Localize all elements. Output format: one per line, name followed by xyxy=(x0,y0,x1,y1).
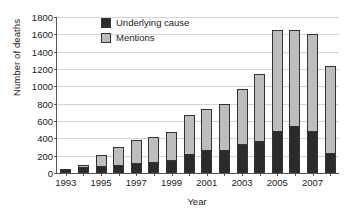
bar-group xyxy=(113,147,124,173)
legend-label-mentions: Mentions xyxy=(116,32,155,43)
bar-segment-underlying-cause xyxy=(113,165,124,173)
bar-group xyxy=(272,30,283,173)
bar-segment-underlying-cause xyxy=(289,126,300,173)
stacked-bar-chart: Number of deaths 02004006008001000120014… xyxy=(0,0,344,213)
bar-segment-underlying-cause xyxy=(325,153,336,173)
bar-group xyxy=(201,109,212,173)
bar-group xyxy=(237,89,248,173)
y-tick-label: 400 xyxy=(37,133,53,144)
legend-label-underlying-cause: Underlying cause xyxy=(116,17,189,28)
bar-segment-underlying-cause xyxy=(131,163,142,173)
x-tick-label: 2003 xyxy=(231,177,252,188)
gridline xyxy=(57,17,339,18)
bar-group xyxy=(219,104,230,173)
y-tick-mark xyxy=(54,173,57,174)
y-tick-mark xyxy=(54,52,57,53)
x-tick-mark xyxy=(330,173,331,176)
bar-group xyxy=(184,115,195,174)
bar-group xyxy=(148,137,159,173)
y-tick-label: 1200 xyxy=(32,64,53,75)
bar-group xyxy=(325,66,336,173)
bar-group xyxy=(289,30,300,173)
x-tick-label: 1993 xyxy=(55,177,76,188)
y-tick-label: 1400 xyxy=(32,46,53,57)
y-tick-label: 200 xyxy=(37,150,53,161)
legend-item-mentions: Mentions xyxy=(101,30,189,45)
x-axis-title: Year xyxy=(56,196,338,207)
x-tick-mark xyxy=(83,173,84,176)
x-tick-label: 1995 xyxy=(90,177,111,188)
y-tick-mark xyxy=(54,156,57,157)
bar-group xyxy=(307,34,318,173)
x-tick-label: 2005 xyxy=(267,177,288,188)
y-tick-mark xyxy=(54,121,57,122)
y-tick-label: 800 xyxy=(37,98,53,109)
x-tick-mark xyxy=(66,173,67,176)
y-tick-label: 1600 xyxy=(32,29,53,40)
x-tick-label: 1999 xyxy=(161,177,182,188)
bar-group xyxy=(254,74,265,173)
bar-group xyxy=(131,140,142,173)
x-tick-label: 1997 xyxy=(126,177,147,188)
y-tick-label: 1000 xyxy=(32,81,53,92)
x-tick-label: 2007 xyxy=(302,177,323,188)
x-tick-mark xyxy=(154,173,155,176)
y-tick-label: 0 xyxy=(48,168,53,179)
bar-segment-underlying-cause xyxy=(219,150,230,173)
bar-segment-underlying-cause xyxy=(272,131,283,173)
bar-group xyxy=(166,132,177,173)
x-tick-mark xyxy=(101,173,102,176)
bar-segment-underlying-cause xyxy=(254,141,265,174)
y-tick-mark xyxy=(54,86,57,87)
bar-segment-underlying-cause xyxy=(148,162,159,173)
x-tick-label: 2001 xyxy=(196,177,217,188)
bar-segment-underlying-cause xyxy=(184,154,195,173)
x-tick-mark xyxy=(224,173,225,176)
y-tick-mark xyxy=(54,69,57,70)
y-tick-mark xyxy=(54,34,57,35)
y-tick-mark xyxy=(54,138,57,139)
bar-segment-underlying-cause xyxy=(307,131,318,173)
x-tick-mark xyxy=(260,173,261,176)
bar-segment-underlying-cause xyxy=(201,150,212,173)
legend-swatch-icon-mentions xyxy=(101,33,111,43)
bar-segment-underlying-cause xyxy=(96,166,107,173)
x-tick-mark xyxy=(207,173,208,176)
x-tick-mark xyxy=(277,173,278,176)
x-tick-mark xyxy=(295,173,296,176)
x-tick-mark xyxy=(242,173,243,176)
legend-swatch-icon-underlying-cause xyxy=(101,18,111,28)
x-tick-mark xyxy=(189,173,190,176)
bar-segment-underlying-cause xyxy=(166,160,177,173)
plot-area: 020040060080010001200140016001800 199319… xyxy=(56,17,339,174)
y-tick-label: 1800 xyxy=(32,12,53,23)
x-tick-mark xyxy=(313,173,314,176)
chart-legend: Underlying cause Mentions xyxy=(101,15,189,45)
legend-item-underlying-cause: Underlying cause xyxy=(101,15,189,30)
y-tick-label: 600 xyxy=(37,116,53,127)
bar-group xyxy=(78,165,89,173)
y-tick-mark xyxy=(54,104,57,105)
bar-group xyxy=(96,155,107,173)
bar-segment-underlying-cause xyxy=(237,144,248,173)
x-tick-mark xyxy=(172,173,173,176)
y-axis-title: Number of deaths xyxy=(11,0,22,118)
x-tick-mark xyxy=(119,173,120,176)
y-tick-mark xyxy=(54,17,57,18)
x-tick-mark xyxy=(136,173,137,176)
